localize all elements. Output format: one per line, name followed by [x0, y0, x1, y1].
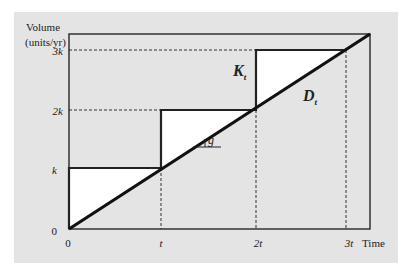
x-tick-2t: 2t [254, 237, 264, 249]
capacity-label: Kt [232, 62, 247, 82]
y-tick-3k: 3k [52, 45, 65, 57]
x-tick-t: t [159, 237, 163, 249]
demand-label-main: D [302, 87, 315, 104]
demand-label: Dt [302, 87, 318, 107]
capacity-label-sub: t [244, 72, 247, 82]
demand-line [69, 34, 370, 229]
demand-label-sub: t [315, 97, 318, 107]
x-axis-label: Time [362, 237, 385, 249]
y-tick-0: 0 [52, 225, 58, 237]
x-tick-3t: 3t [344, 237, 355, 249]
growth-label: g [208, 133, 214, 147]
y-tick-2k: 2k [53, 105, 65, 117]
y-tick-k: k [52, 164, 58, 176]
capacity-diagram: g Volume (units/yr) 3k 2k k 0 0 t 2t 3t … [0, 0, 413, 274]
y-axis-label-line1: Volume [26, 21, 60, 33]
x-tick-0: 0 [65, 237, 71, 249]
